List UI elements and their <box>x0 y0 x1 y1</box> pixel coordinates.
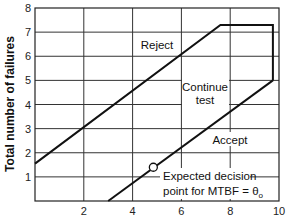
x-tick-label: 10 <box>273 205 285 217</box>
decision-note-prefix: point for MTBF = θ <box>163 185 259 197</box>
sequential-test-chart: 24681012345678 Total number of failures … <box>0 0 287 222</box>
x-tick-label: 4 <box>130 205 136 217</box>
accept-region-label: Accept <box>212 134 248 146</box>
reject-region-label: Reject <box>141 39 174 51</box>
theta-subscript: o <box>259 191 264 200</box>
y-tick-label: 4 <box>25 99 31 111</box>
y-tick-label: 6 <box>25 50 31 62</box>
decision-point-circle-icon <box>149 163 157 171</box>
decision-point-marker <box>149 163 157 171</box>
continue-region-label-line2: test <box>196 94 215 106</box>
decision-note-line1: Expected decision <box>163 170 256 182</box>
y-tick-label: 3 <box>25 123 31 135</box>
y-axis-title: Total number of failures <box>3 36 17 172</box>
x-tick-label: 8 <box>227 205 233 217</box>
continue-region-label-line1: Continue <box>182 81 228 93</box>
y-tick-label: 5 <box>25 74 31 86</box>
y-tick-label: 1 <box>25 171 31 183</box>
x-tick-label: 6 <box>178 205 184 217</box>
y-tick-label: 8 <box>25 2 31 14</box>
x-tick-label: 2 <box>81 205 87 217</box>
y-tick-label: 7 <box>25 26 31 38</box>
y-tick-label: 2 <box>25 147 31 159</box>
